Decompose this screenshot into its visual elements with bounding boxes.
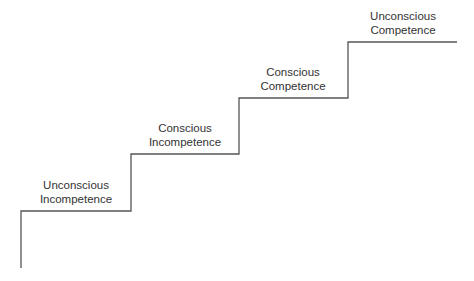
- step-label-unconscious-incompetence: Unconscious Incompetence: [16, 178, 136, 206]
- step-label-line1: Unconscious: [343, 9, 463, 23]
- step-label-line1: Conscious: [233, 65, 353, 79]
- step-label-unconscious-competence: Unconscious Competence: [343, 9, 463, 37]
- step-label-conscious-incompetence: Conscious Incompetence: [125, 121, 245, 149]
- step-label-line2: Incompetence: [125, 135, 245, 149]
- step-label-line2: Competence: [343, 23, 463, 37]
- step-label-line1: Unconscious: [16, 178, 136, 192]
- step-label-line2: Competence: [233, 79, 353, 93]
- step-label-line2: Incompetence: [16, 192, 136, 206]
- step-label-line1: Conscious: [125, 121, 245, 135]
- step-label-conscious-competence: Conscious Competence: [233, 65, 353, 93]
